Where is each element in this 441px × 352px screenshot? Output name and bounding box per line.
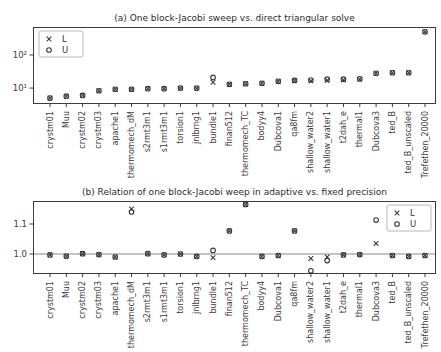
x-tick-label: thermomech_TC — [241, 281, 250, 347]
x-tick-label: finan512 — [225, 111, 234, 146]
legend-box — [39, 31, 83, 57]
x-tick-label: jnlbrng1 — [192, 111, 201, 145]
x-tick-label: torsion1 — [176, 111, 185, 144]
plot-a-canvas: 10¹10²crystm01Muucrystm02crystm03apache1… — [0, 27, 441, 187]
x-tick-label: crystm03 — [94, 111, 103, 149]
x-tick-label: s2rmt3m1 — [143, 111, 152, 152]
y-tick-label: 10² — [13, 50, 27, 60]
x-tick-label: torsion1 — [176, 281, 185, 314]
x-tick-label: crystm02 — [78, 111, 87, 149]
x-tick-label: apache1 — [111, 281, 120, 315]
x-tick-label: bodyy4 — [257, 111, 266, 141]
x-tick-label: Dubcova3 — [372, 281, 381, 321]
x-tick-label: shallow_water1 — [323, 281, 332, 343]
plot-b-title: (b) Relation of one block-Jacobi weep in… — [33, 187, 436, 197]
x-tick-label: crystm02 — [78, 281, 87, 319]
legend-label: L — [410, 208, 415, 218]
x-tick-label: finan512 — [225, 281, 234, 316]
x-tick-label: shallow_water2 — [306, 111, 315, 173]
axes-frame — [34, 202, 436, 274]
x-tick-label: Trefethen_20000 — [421, 111, 430, 179]
x-tick-label: thermomech_dM — [127, 281, 136, 348]
data-point-o — [341, 77, 346, 82]
figure: (a) One block-Jacobi sweep vs. direct tr… — [0, 0, 441, 352]
x-tick-label: Dubcova1 — [274, 111, 283, 151]
data-point-x — [374, 241, 379, 246]
data-point-o — [309, 268, 314, 273]
x-tick-label: shallow_water1 — [323, 111, 332, 173]
axes-frame — [34, 28, 436, 104]
x-tick-label: jnlbrng1 — [192, 281, 201, 315]
x-tick-label: shallow_water2 — [306, 281, 315, 343]
x-tick-label: Muu — [62, 111, 71, 128]
plot-a-title: (a) One block-Jacobi sweep vs. direct tr… — [33, 13, 436, 23]
legend-label: U — [410, 219, 416, 229]
y-tick-label: 1.1 — [13, 219, 27, 229]
x-tick-label: s1rmt3m1 — [160, 281, 169, 322]
legend-label: U — [62, 45, 68, 55]
x-tick-label: ted_B — [388, 111, 397, 134]
x-tick-label: apache1 — [111, 111, 120, 145]
data-point-x — [211, 80, 216, 85]
x-tick-label: crystm01 — [46, 111, 55, 149]
plot-b-canvas: 1.01.1crystm01Muucrystm02crystm03apache1… — [0, 201, 441, 352]
legend-box — [387, 205, 431, 231]
x-tick-label: bundle1 — [209, 281, 218, 314]
x-tick-label: thermomech_dM — [127, 111, 136, 178]
x-tick-label: t2dah_e — [339, 281, 348, 313]
x-tick-label: bundle1 — [209, 111, 218, 144]
x-tick-label: thermal1 — [355, 111, 364, 147]
x-tick-label: bodyy4 — [257, 281, 266, 311]
x-tick-label: qa8fm — [290, 111, 299, 137]
x-tick-label: Dubcova3 — [372, 111, 381, 151]
x-tick-label: thermal1 — [355, 281, 364, 317]
x-tick-label: t2dah_e — [339, 111, 348, 143]
data-point-o — [325, 258, 330, 263]
x-tick-label: ted_B_unscaled — [404, 281, 413, 343]
x-tick-label: crystm01 — [46, 281, 55, 319]
data-point-o — [211, 248, 216, 253]
x-tick-label: ted_B_unscaled — [404, 111, 413, 173]
x-tick-label: crystm03 — [94, 281, 103, 319]
data-point-x — [309, 256, 314, 261]
legend-label: L — [62, 34, 67, 44]
data-point-o — [211, 75, 216, 80]
data-point-o — [374, 218, 379, 223]
x-tick-label: s1rmt3m1 — [160, 111, 169, 152]
x-tick-label: s2rmt3m1 — [143, 281, 152, 322]
y-tick-label: 10¹ — [13, 83, 27, 93]
data-point-x — [211, 255, 216, 260]
x-tick-label: Trefethen_20000 — [421, 281, 430, 349]
data-point-o — [129, 210, 134, 215]
x-tick-label: qa8fm — [290, 281, 299, 307]
x-tick-label: thermomech_TC — [241, 111, 250, 177]
x-tick-label: Dubcova1 — [274, 281, 283, 321]
y-tick-label: 1.0 — [13, 249, 27, 259]
x-tick-label: Muu — [62, 281, 71, 298]
x-tick-label: ted_B — [388, 281, 397, 304]
